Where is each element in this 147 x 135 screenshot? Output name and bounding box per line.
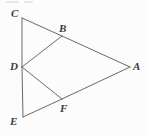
segment-EF <box>23 99 62 117</box>
segment-group <box>22 18 130 117</box>
segment-BD <box>22 36 62 67</box>
segment-DF <box>22 67 62 99</box>
vertex-label-C: C <box>11 8 18 19</box>
vertex-label-E: E <box>10 116 17 127</box>
vertex-label-A: A <box>133 61 140 72</box>
segment-CB <box>22 18 62 36</box>
figure-line-drawing <box>0 0 147 135</box>
vertex-label-B: B <box>59 23 66 34</box>
geometry-figure: C B A D F E <box>0 0 147 135</box>
vertex-label-F: F <box>60 103 67 114</box>
vertex-label-D: D <box>10 61 18 72</box>
segment-DE <box>22 67 23 117</box>
segment-BA <box>62 36 130 67</box>
segment-FA <box>62 67 130 99</box>
